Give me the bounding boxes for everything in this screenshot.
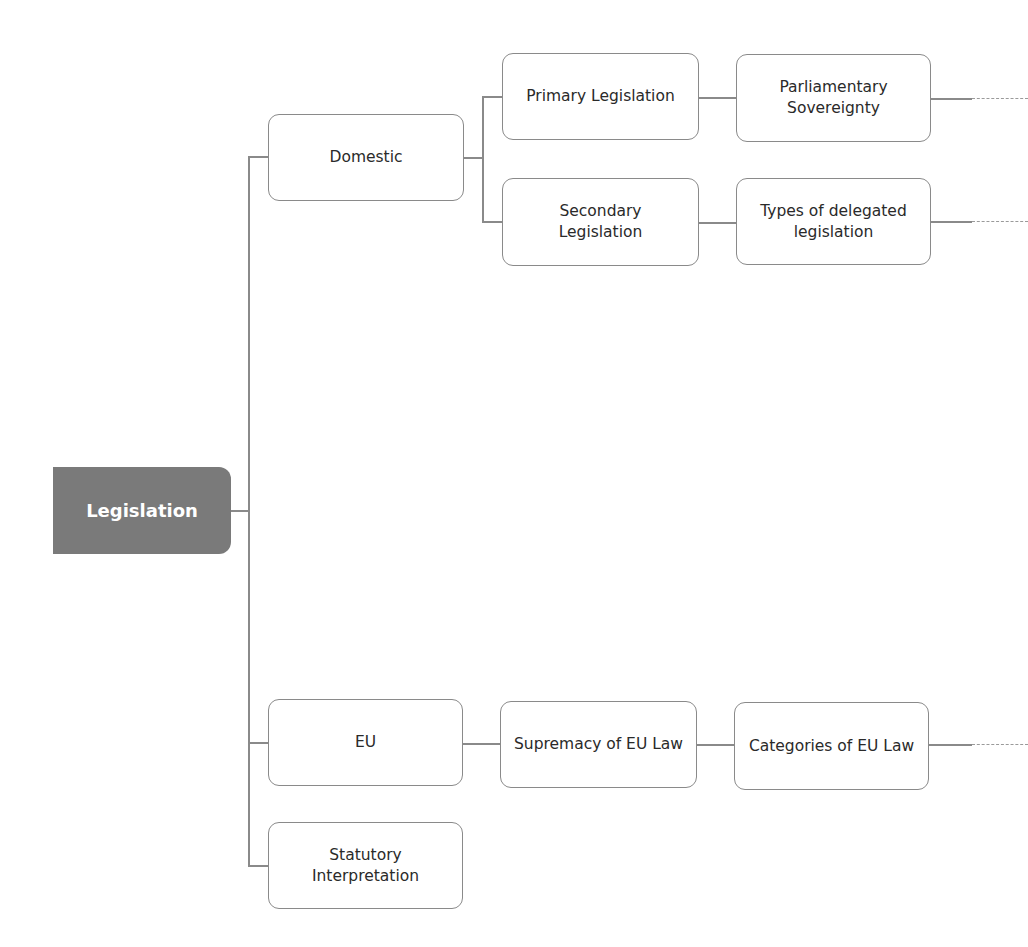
connector-domestic-vertical (482, 96, 484, 222)
connector-supremacy-categories (696, 744, 735, 746)
node-domestic: Domestic (268, 114, 464, 201)
node-primary-legislation: Primary Legislation (502, 53, 699, 140)
connector-domestic-branch (463, 157, 483, 159)
node-eu: EU (268, 699, 463, 786)
connector-trunk-domestic (248, 156, 268, 158)
connector-categories-out (928, 744, 972, 746)
node-parliamentary-sovereignty: Parliamentary Sovereignty (736, 54, 931, 142)
connector-types-continues (972, 221, 1028, 222)
node-secondary-label: Secondary Legislation (559, 201, 643, 243)
node-supremacy-label: Supremacy of EU Law (514, 734, 683, 755)
node-types-label: Types of delegated legislation (760, 201, 906, 243)
connector-parliamentary-out (930, 98, 972, 100)
connector-parliamentary-continues (972, 98, 1028, 99)
node-types-of-delegated-legislation: Types of delegated legislation (736, 178, 931, 265)
connector-to-secondary (482, 221, 503, 223)
connector-secondary-types (698, 222, 737, 224)
connector-trunk-statutory (248, 865, 268, 867)
node-domestic-label: Domestic (329, 147, 402, 168)
node-categories-of-eu-law: Categories of EU Law (734, 702, 929, 790)
node-categories-label: Categories of EU Law (749, 736, 914, 757)
connector-eu-supremacy (462, 743, 501, 745)
node-secondary-legislation: Secondary Legislation (502, 178, 699, 266)
connector-trunk-eu (248, 742, 268, 744)
connector-primary-parliamentary (698, 97, 737, 99)
node-parliamentary-label: Parliamentary Sovereignty (779, 77, 887, 119)
connector-types-out (930, 221, 972, 223)
node-eu-label: EU (355, 732, 376, 753)
connector-root-trunk (231, 510, 249, 512)
node-primary-label: Primary Legislation (526, 86, 674, 107)
connector-trunk (248, 156, 250, 866)
connector-to-primary (482, 96, 503, 98)
connector-categories-continues (972, 744, 1028, 745)
node-supremacy-of-eu-law: Supremacy of EU Law (500, 701, 697, 788)
node-statutory-label: Statutory Interpretation (312, 845, 419, 887)
root-label: Legislation (86, 500, 198, 521)
root-node-legislation: Legislation (53, 467, 231, 554)
node-statutory-interpretation: Statutory Interpretation (268, 822, 463, 909)
